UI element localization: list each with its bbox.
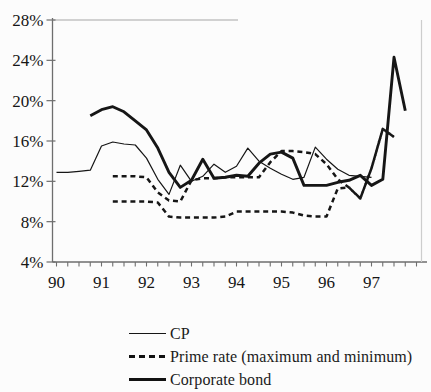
- legend-item-corporate-bond: Corporate bond: [129, 368, 412, 391]
- corporate-bond-line-sample: [129, 378, 166, 381]
- x-tick-label: 90: [48, 273, 65, 292]
- x-tick-label: 96: [318, 273, 335, 292]
- x-tick-label: 92: [138, 273, 155, 292]
- x-tick-label: 94: [228, 273, 246, 292]
- x-tick-label: 95: [273, 273, 290, 292]
- x-tick-label: 93: [183, 273, 200, 292]
- legend-label-corporate-bond: Corporate bond: [170, 372, 271, 388]
- series-line-corporate-bond: [90, 57, 405, 187]
- legend-item-cp: CP: [129, 322, 412, 345]
- y-tick-label: 28%: [12, 11, 43, 30]
- x-tick-label: 91: [93, 273, 110, 292]
- line-chart: 4%8%12%16%20%24%28%9091929394959697: [0, 0, 431, 310]
- legend-label-cp: CP: [170, 326, 190, 342]
- y-tick-label: 16%: [12, 132, 43, 151]
- chart-figure: 4%8%12%16%20%24%28%9091929394959697 CP P…: [0, 0, 431, 392]
- x-tick-label: 97: [363, 273, 381, 292]
- cp-line-sample: [129, 333, 166, 334]
- y-tick-label: 8%: [21, 213, 44, 232]
- y-tick-label: 4%: [21, 253, 44, 272]
- y-tick-label: 20%: [12, 92, 43, 111]
- y-tick-label: 12%: [12, 172, 43, 191]
- legend-label-prime-rate: Prime rate (maximum and minimum): [170, 349, 412, 365]
- prime-rate-line-sample: [129, 355, 166, 358]
- legend: CP Prime rate (maximum and minimum) Corp…: [129, 322, 412, 391]
- legend-item-prime-rate: Prime rate (maximum and minimum): [129, 345, 412, 368]
- y-tick-label: 24%: [12, 51, 43, 70]
